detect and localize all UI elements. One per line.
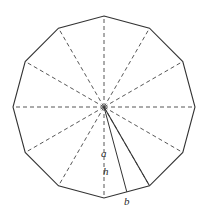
geometry-figure: a h b	[0, 0, 203, 219]
apothem-label-h: h	[103, 166, 109, 177]
dodecagon-diagram	[0, 0, 203, 219]
radius-2	[104, 62, 183, 108]
angle-label-a: a	[101, 148, 107, 159]
radius-1	[104, 28, 150, 107]
radius-8	[25, 107, 104, 153]
radius-4	[104, 107, 183, 153]
base-label-b: b	[124, 196, 130, 207]
radius-10	[25, 62, 104, 108]
solid-radius-line	[104, 107, 150, 186]
radius-11	[59, 28, 105, 107]
apothem-line	[104, 107, 127, 192]
radius-7	[59, 107, 105, 186]
